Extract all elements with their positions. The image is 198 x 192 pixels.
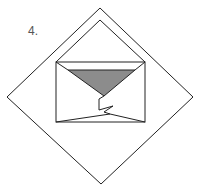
- gray-triangle: [68, 70, 135, 96]
- bottom-fold-left: [56, 114, 145, 122]
- flap-left: [56, 62, 68, 70]
- inner-roof: [56, 20, 145, 62]
- envelope-diamond-figure: [0, 0, 198, 192]
- outer-diamond: [7, 8, 193, 184]
- zigzag-fold: [99, 96, 113, 114]
- flap-right: [135, 62, 145, 70]
